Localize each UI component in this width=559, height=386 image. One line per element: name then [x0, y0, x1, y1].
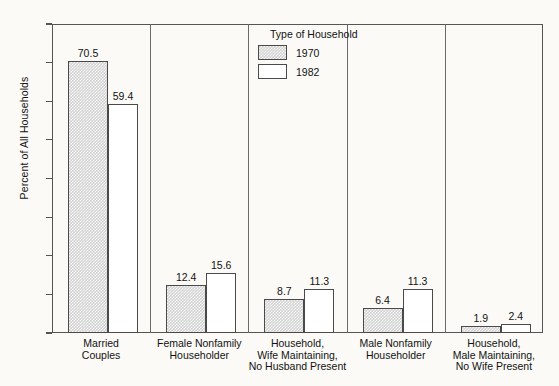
bar-value-label: 6.4 — [363, 294, 403, 306]
bar-1970-group-2 — [166, 285, 206, 333]
bar-value-label: 2.4 — [501, 310, 531, 322]
y-axis-title: Percent of All Households — [18, 38, 30, 238]
category-label-1: Married Couples — [46, 338, 156, 361]
bar-value-label: 70.5 — [68, 47, 108, 59]
bar-1982-group-4 — [403, 289, 433, 333]
bar-1982-group-3 — [304, 289, 334, 333]
category-separator — [150, 24, 151, 333]
bar-value-label: 1.9 — [461, 312, 501, 324]
y-tick-mark — [46, 101, 52, 102]
category-label-4: Male Nonfamily Householder — [341, 338, 451, 361]
bar-value-label: 11.3 — [304, 275, 334, 287]
legend-label-1970: 1970 — [296, 47, 319, 59]
bar-1982-group-2 — [206, 273, 236, 333]
bar-1970-group-4 — [363, 308, 403, 333]
y-tick-mark — [46, 332, 52, 333]
legend-label-1982: 1982 — [296, 66, 319, 78]
bar-value-label: 11.3 — [403, 275, 433, 287]
bar-1970-group-3 — [264, 299, 304, 333]
category-separator — [248, 24, 249, 333]
y-tick-mark — [46, 294, 52, 295]
y-tick-mark — [46, 62, 52, 63]
y-tick-mark — [46, 23, 52, 24]
bar-1970-group-1 — [68, 61, 108, 333]
legend-item-1970: 1970 — [258, 45, 358, 60]
category-label-2: Female Nonfamily Householder — [144, 338, 254, 361]
bar-value-label: 15.6 — [206, 259, 236, 271]
legend-title: Type of Household — [258, 28, 358, 40]
category-separator — [445, 24, 446, 333]
bar-value-label: 59.4 — [108, 90, 138, 102]
legend-item-1982: 1982 — [258, 64, 358, 79]
bar-1982-group-1 — [108, 104, 138, 333]
category-label-5: Household, Male Maintaining, No Wife Pre… — [439, 338, 549, 373]
y-tick-mark — [46, 217, 52, 218]
y-tick-mark — [46, 139, 52, 140]
bar-value-label: 12.4 — [166, 271, 206, 283]
bar-1982-group-5 — [501, 324, 531, 333]
legend-swatch-1982 — [258, 64, 287, 79]
bar-value-label: 8.7 — [264, 285, 304, 297]
legend: Type of Household 1970 1982 — [258, 28, 358, 83]
bar-chart: Percent of All Households 01020304050607… — [0, 0, 559, 386]
y-tick-mark — [46, 178, 52, 179]
bar-1970-group-5 — [461, 326, 501, 333]
legend-swatch-1970 — [258, 45, 287, 60]
category-label-3: Household, Wife Maintaining, No Husband … — [242, 338, 352, 373]
y-tick-mark — [46, 255, 52, 256]
